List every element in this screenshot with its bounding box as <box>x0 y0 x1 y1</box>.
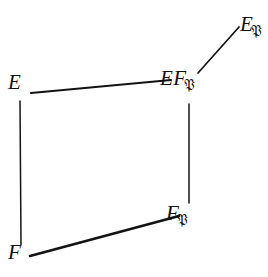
lattice-diagram: E F EF𝔓 F𝔓 E𝔓 <box>0 0 268 277</box>
node-F: F <box>8 242 21 263</box>
node-F-frak-P-subscript: 𝔓 <box>177 212 188 228</box>
edge-F-to-F-frak-P <box>30 216 179 256</box>
node-E: E <box>8 72 21 93</box>
node-EF-frak-P-base: EF <box>160 66 186 90</box>
edge-E-to-F <box>20 101 21 245</box>
node-F-base: F <box>8 240 21 264</box>
edge-E-to-EF-frak-P <box>31 80 171 93</box>
node-E-frak-P: E𝔓 <box>240 14 264 35</box>
node-EF-frak-P-subscript: 𝔓 <box>184 77 195 93</box>
node-E-base: E <box>8 70 21 94</box>
node-F-frak-P: F𝔓 <box>166 203 190 224</box>
diagram-edges <box>0 0 268 277</box>
node-E-frak-P-subscript: 𝔓 <box>251 23 262 39</box>
node-EF-frak-P: EF𝔓 <box>160 68 197 89</box>
edge-EF-frak-P-to-E-frak-P <box>198 27 239 73</box>
